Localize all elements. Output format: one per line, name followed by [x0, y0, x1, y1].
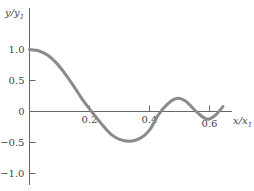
y-axis-title: y/y1: [4, 7, 24, 21]
y-tick-label: 0.5: [9, 75, 25, 86]
y-tick-label: −1.0: [0, 168, 24, 179]
line-chart: 1.00.50−0.5−1.0 0.20.40.6 y/y1 x/x1: [0, 0, 254, 191]
y-tick-label: 1.0: [9, 44, 25, 55]
y-tick-label: 0: [18, 106, 24, 117]
y-tick-label: −0.5: [0, 137, 24, 148]
x-axis-title: x/x1: [233, 115, 252, 129]
data-curve: [30, 50, 224, 142]
